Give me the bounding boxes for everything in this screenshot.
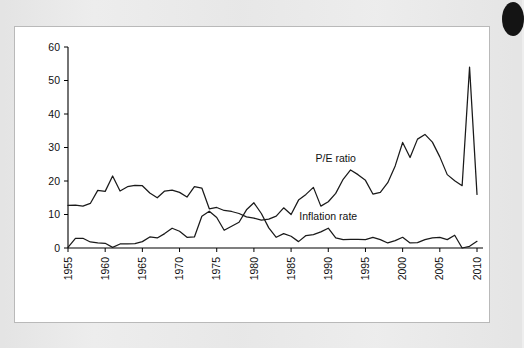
y-tick-label: 50 [48, 74, 60, 86]
y-tick-label: 60 [48, 41, 60, 53]
x-tick-label: 1960 [99, 257, 111, 281]
series-line-inflation-rate [68, 203, 477, 248]
y-tick-label: 40 [48, 108, 60, 120]
y-tick-label: 20 [48, 175, 60, 187]
x-tick-label: 1970 [173, 257, 185, 281]
x-tick-label: 2000 [396, 257, 408, 281]
series-annotation-p-e-ratio: P/E ratio [316, 152, 356, 164]
x-tick-label: 2010 [471, 257, 483, 281]
page-corner-thumb-mark [502, 2, 524, 36]
figure-frame: 0102030405060195519601965197019751980198… [14, 26, 490, 323]
x-tick-label: 1990 [322, 257, 334, 281]
x-tick-label: 1985 [285, 257, 297, 281]
series-line-p-e-ratio [68, 67, 477, 220]
line-chart: 0102030405060195519601965197019751980198… [15, 27, 489, 322]
y-tick-label: 10 [48, 208, 60, 220]
x-tick-label: 1955 [62, 257, 74, 281]
series-annotation-inflation-rate: Inflation rate [299, 210, 357, 222]
x-tick-label: 2005 [433, 257, 445, 281]
y-tick-label: 30 [48, 141, 60, 153]
x-tick-label: 1965 [136, 257, 148, 281]
y-tick-label: 0 [54, 242, 60, 254]
x-tick-label: 1995 [359, 257, 371, 281]
x-tick-label: 1980 [248, 257, 260, 281]
x-tick-label: 1975 [210, 257, 222, 281]
